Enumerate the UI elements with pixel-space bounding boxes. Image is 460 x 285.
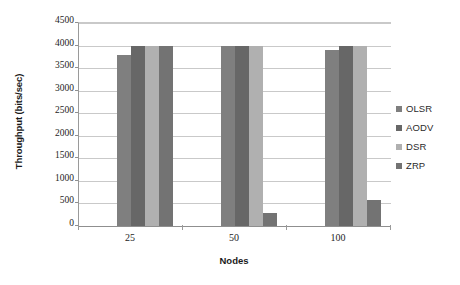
x-axis-tick-mark <box>182 225 183 230</box>
y-axis-tick-label: 4500 <box>30 15 74 25</box>
gridline <box>79 226 391 227</box>
legend-item-label: ZRP <box>406 160 425 171</box>
legend-item-label: OLSR <box>406 103 432 114</box>
y-axis-tick-label: 3500 <box>30 60 74 70</box>
legend-item[interactable]: AODV <box>396 118 433 137</box>
y-axis-tick-label: 0 <box>30 218 74 228</box>
y-axis-tick-label: 3000 <box>30 83 74 93</box>
legend-item[interactable]: DSR <box>396 137 433 156</box>
x-axis-tick-label: 50 <box>204 232 264 243</box>
bar <box>235 46 249 226</box>
bar <box>249 46 263 226</box>
x-axis-tick-mark <box>286 225 287 230</box>
legend-swatch-icon <box>396 106 402 112</box>
bar <box>353 46 367 226</box>
y-axis-tick-label: 1000 <box>30 173 74 183</box>
legend: OLSRAODVDSRZRP <box>396 99 433 175</box>
y-axis-tick-label: 4000 <box>30 38 74 48</box>
bar <box>131 46 145 226</box>
y-axis-tick-label: 1500 <box>30 150 74 160</box>
legend-item[interactable]: OLSR <box>396 99 433 118</box>
bar <box>145 46 159 226</box>
bar <box>159 46 173 226</box>
legend-item[interactable]: ZRP <box>396 156 433 175</box>
legend-swatch-icon <box>396 125 402 131</box>
legend-swatch-icon <box>396 144 402 150</box>
y-axis-tick-label: 500 <box>30 195 74 205</box>
y-axis-title: Throughput (bits/sec) <box>13 42 24 202</box>
x-axis-title: Nodes <box>78 255 390 266</box>
bar-chart: Throughput (bits/sec) 050010001500200025… <box>0 0 460 285</box>
y-axis-tick-label: 2500 <box>30 105 74 115</box>
bar <box>263 213 277 226</box>
legend-swatch-icon <box>396 163 402 169</box>
x-axis-tick-label: 25 <box>100 232 160 243</box>
legend-item-label: DSR <box>406 141 426 152</box>
x-axis-tick-mark <box>390 225 391 230</box>
gridline <box>79 23 391 24</box>
legend-item-label: AODV <box>406 122 433 133</box>
y-axis-tick-label: 2000 <box>30 128 74 138</box>
bar <box>339 46 353 226</box>
bar <box>117 55 131 226</box>
x-axis-tick-mark <box>78 225 79 230</box>
plot-area <box>78 22 391 226</box>
bar <box>367 200 381 226</box>
bar <box>221 46 235 226</box>
x-axis-tick-label: 100 <box>308 232 368 243</box>
bar <box>325 50 339 226</box>
